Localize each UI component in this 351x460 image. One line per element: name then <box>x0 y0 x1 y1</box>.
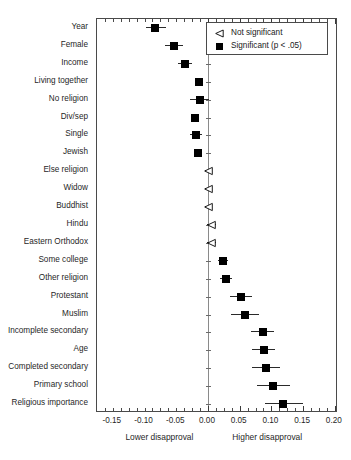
forest-row <box>97 199 336 215</box>
category-label: Else religion <box>0 165 88 175</box>
category-label: Female <box>0 40 88 50</box>
category-label: Other religion <box>0 273 88 283</box>
forest-row <box>97 145 336 161</box>
category-label: Primary school <box>0 380 88 390</box>
category-label: Income <box>0 58 88 68</box>
x-tick-label: 0.20 <box>314 416 351 425</box>
forest-row <box>97 271 336 287</box>
plot-frame <box>96 18 337 412</box>
forest-row <box>97 253 336 269</box>
forest-row <box>97 235 336 251</box>
forest-row <box>97 360 336 376</box>
square-filled-icon <box>215 42 224 51</box>
triangle-outline-icon <box>215 29 224 38</box>
category-label: Eastern Orthodox <box>0 237 88 247</box>
category-label: Protestant <box>0 291 88 301</box>
category-label: Incomplete secondary <box>0 326 88 336</box>
category-label: Year <box>0 22 88 32</box>
forest-row <box>97 56 336 72</box>
category-label: Hindu <box>0 219 88 229</box>
category-label: Muslim <box>0 309 88 319</box>
forest-row <box>97 289 336 305</box>
forest-row <box>97 74 336 90</box>
estimate-marker-significant <box>151 24 159 32</box>
estimate-marker-not-significant <box>204 184 213 194</box>
category-label: Widow <box>0 183 88 193</box>
estimate-marker-not-significant <box>207 220 216 230</box>
forest-plot-figure: YearFemaleIncomeLiving togetherNo religi… <box>0 0 351 460</box>
estimate-marker-significant <box>269 382 277 390</box>
category-axis-labels: YearFemaleIncomeLiving togetherNo religi… <box>0 18 92 412</box>
forest-row <box>97 181 336 197</box>
forest-row <box>97 92 336 108</box>
forest-row <box>97 307 336 323</box>
category-label: Buddhist <box>0 201 88 211</box>
forest-row <box>97 217 336 233</box>
estimate-marker-significant <box>181 60 189 68</box>
estimate-marker-significant <box>196 96 204 104</box>
estimate-marker-significant <box>170 42 178 50</box>
axis-caption-left: Lower disapproval <box>99 432 219 442</box>
estimate-marker-significant <box>279 400 287 408</box>
estimate-marker-significant <box>259 328 267 336</box>
legend: Not significant Significant (p < .05) <box>206 22 328 55</box>
forest-row <box>97 163 336 179</box>
estimate-marker-significant <box>219 257 227 265</box>
forest-row <box>97 110 336 126</box>
estimate-marker-not-significant <box>204 202 213 212</box>
category-label: Some college <box>0 255 88 265</box>
estimate-marker-not-significant <box>207 238 216 248</box>
x-axis-tick-labels: -0.15-0.10-0.050.000.050.100.150.20 <box>0 416 351 428</box>
estimate-marker-not-significant <box>204 166 213 176</box>
axis-caption-right: Higher disapproval <box>207 432 327 442</box>
plot-area <box>97 19 336 411</box>
forest-row <box>97 127 336 143</box>
category-label: Age <box>0 344 88 354</box>
estimate-marker-significant <box>191 114 199 122</box>
legend-label-not-significant: Not significant <box>231 27 282 39</box>
category-label: Jewish <box>0 147 88 157</box>
legend-label-significant: Significant (p < .05) <box>231 40 302 52</box>
forest-row <box>97 378 336 394</box>
estimate-marker-significant <box>262 364 270 372</box>
forest-row <box>97 324 336 340</box>
estimate-marker-significant <box>194 149 202 157</box>
category-label: Single <box>0 129 88 139</box>
estimate-marker-significant <box>260 346 268 354</box>
estimate-marker-significant <box>192 131 200 139</box>
category-label: No religion <box>0 94 88 104</box>
category-label: Religious importance <box>0 398 88 408</box>
estimate-marker-significant <box>237 293 245 301</box>
estimate-marker-significant <box>241 311 249 319</box>
category-label: Completed secondary <box>0 362 88 372</box>
category-label: Living together <box>0 76 88 86</box>
estimate-marker-significant <box>222 275 230 283</box>
category-label: Div/sep <box>0 112 88 122</box>
forest-row <box>97 342 336 358</box>
forest-row <box>97 396 336 412</box>
estimate-marker-significant <box>195 78 203 86</box>
